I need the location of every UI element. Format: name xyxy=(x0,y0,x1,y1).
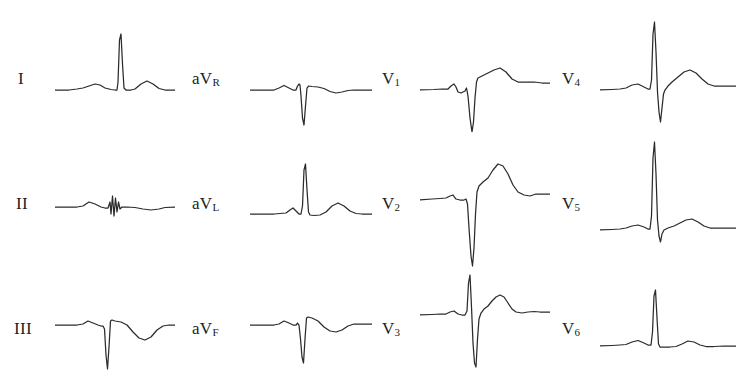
ecg-waveform-v1 xyxy=(420,22,550,132)
lead-label-v3: V3 xyxy=(382,320,400,337)
ecg-waveform-i xyxy=(55,22,175,132)
lead-label-main: aV xyxy=(192,69,212,88)
lead-label-subscript: 5 xyxy=(575,201,581,213)
lead-label-avr: aVR xyxy=(192,70,220,87)
lead-label-main: V xyxy=(382,319,395,338)
ecg-waveform-v5 xyxy=(600,134,736,264)
lead-label-subscript: 3 xyxy=(395,326,401,338)
ecg-waveform-avl xyxy=(250,152,372,262)
lead-label-subscript: 6 xyxy=(575,326,581,338)
ecg-waveform-iii xyxy=(55,277,175,374)
lead-label-v1: V1 xyxy=(382,70,400,87)
lead-label-main: V xyxy=(562,319,575,338)
ecg-waveform-avf xyxy=(250,277,372,374)
lead-label-v4: V4 xyxy=(562,70,580,87)
lead-label-main: II xyxy=(16,194,28,213)
clipped-caption-text xyxy=(0,0,741,7)
lead-label-main: V xyxy=(562,69,575,88)
lead-label-avf: aVF xyxy=(192,320,219,337)
lead-label-subscript: 4 xyxy=(575,76,581,88)
lead-label-main: V xyxy=(382,194,395,213)
lead-label-main: V xyxy=(382,69,395,88)
lead-label-v2: V2 xyxy=(382,195,400,212)
lead-label-main: aV xyxy=(192,194,212,213)
lead-label-i: I xyxy=(18,70,24,87)
lead-label-v5: V5 xyxy=(562,195,580,212)
ecg-waveform-v6 xyxy=(600,274,736,374)
ecg-waveform-v2 xyxy=(420,144,550,269)
ecg-lead-grid: IIIIIIaVRaVLaVFV1V2V3V4V5V6 xyxy=(0,22,741,365)
ecg-waveform-avr xyxy=(250,22,372,132)
lead-label-subscript: L xyxy=(212,201,219,213)
ecg-waveform-ii xyxy=(55,152,175,262)
ecg-waveform-v4 xyxy=(600,14,736,139)
lead-label-ii: II xyxy=(16,195,28,212)
lead-label-subscript: 1 xyxy=(395,76,401,88)
lead-label-v6: V6 xyxy=(562,320,580,337)
lead-label-main: III xyxy=(14,319,32,338)
lead-label-subscript: 2 xyxy=(395,201,401,213)
lead-label-subscript: R xyxy=(212,76,219,88)
lead-label-subscript: F xyxy=(212,326,218,338)
lead-label-avl: aVL xyxy=(192,195,219,212)
lead-label-main: V xyxy=(562,194,575,213)
lead-label-main: I xyxy=(18,69,24,88)
ecg-waveform-v3 xyxy=(420,267,550,374)
lead-label-iii: III xyxy=(14,320,32,337)
lead-label-main: aV xyxy=(192,319,212,338)
